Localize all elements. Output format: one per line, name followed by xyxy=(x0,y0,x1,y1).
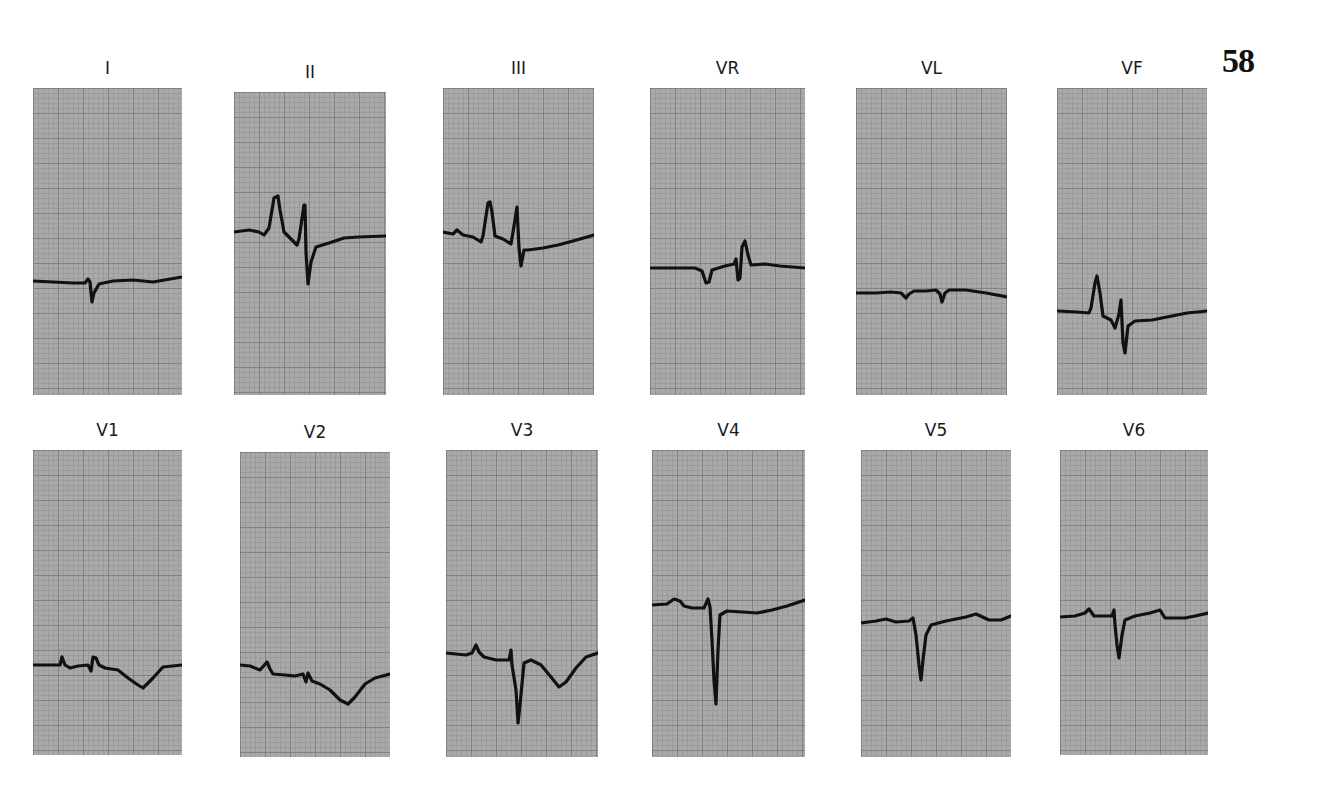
lead-strip-vr xyxy=(650,88,805,395)
ecg-trace-v3 xyxy=(446,450,598,757)
lead-strip-v2 xyxy=(240,452,390,757)
ecg-trace-v5 xyxy=(861,450,1011,757)
lead-strip-v4 xyxy=(652,450,805,757)
lead-label-v5: V5 xyxy=(906,420,966,440)
ecg-trace-i xyxy=(33,88,182,395)
lead-strip-vf xyxy=(1057,88,1207,395)
lead-label-vf: VF xyxy=(1102,58,1162,78)
ecg-trace-v1 xyxy=(33,450,182,755)
ecg-trace-vf xyxy=(1057,88,1207,395)
lead-strip-vl xyxy=(856,88,1007,395)
ecg-trace-vl xyxy=(856,88,1007,395)
lead-label-v1: V1 xyxy=(78,420,138,440)
lead-label-v2: V2 xyxy=(285,422,345,442)
lead-strip-v1 xyxy=(33,450,182,755)
lead-label-vl: VL xyxy=(902,58,962,78)
plate-number: 58 xyxy=(1222,42,1254,80)
lead-strip-iii xyxy=(443,88,594,395)
ecg-trace-v2 xyxy=(240,452,390,757)
lead-label-vr: VR xyxy=(698,58,758,78)
ecg-trace-vr xyxy=(650,88,805,395)
lead-label-i: I xyxy=(78,58,138,78)
lead-label-v4: V4 xyxy=(699,420,759,440)
lead-label-v3: V3 xyxy=(492,420,552,440)
lead-strip-v5 xyxy=(861,450,1011,757)
ecg-trace-iii xyxy=(443,88,594,395)
lead-strip-ii xyxy=(234,92,386,395)
lead-strip-v3 xyxy=(446,450,598,757)
ecg-trace-v6 xyxy=(1060,450,1208,755)
lead-label-iii: III xyxy=(489,58,549,78)
ecg-trace-ii xyxy=(234,92,386,395)
ecg-trace-v4 xyxy=(652,450,805,757)
lead-label-v6: V6 xyxy=(1104,420,1164,440)
lead-strip-v6 xyxy=(1060,450,1208,755)
lead-strip-i xyxy=(33,88,182,395)
lead-label-ii: II xyxy=(280,62,340,82)
